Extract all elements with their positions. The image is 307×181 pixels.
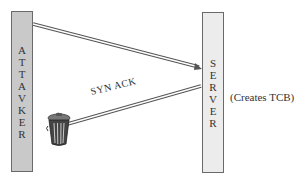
arrows-layer [0,0,307,181]
syn-arrow [33,24,202,70]
trash-can-icon [47,113,71,146]
synack-arrow [60,86,201,129]
